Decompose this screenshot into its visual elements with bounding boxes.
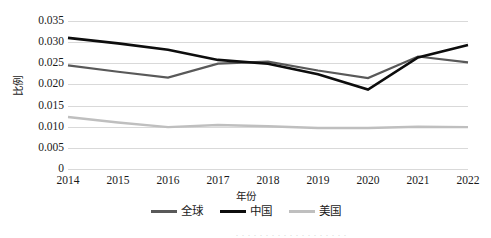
y-tick-label: 0.015 (6, 100, 64, 112)
plot-area (68, 21, 468, 169)
y-tick-label: 0.025 (6, 57, 64, 69)
x-tick-label: 2020 (344, 174, 392, 187)
x-tick-label: 2017 (194, 174, 242, 187)
x-tick-label: 2014 (44, 174, 92, 187)
x-tick-label: 2018 (244, 174, 292, 187)
chart-legend: 全球中国美国 (0, 205, 491, 217)
legend-swatch (220, 210, 246, 213)
legend-label: 中国 (250, 205, 272, 217)
x-tick-label: 2015 (94, 174, 142, 187)
legend-label: 全球 (181, 205, 203, 217)
y-tick-label: 0.010 (6, 121, 64, 133)
axis-baseline (68, 169, 468, 170)
y-tick-label: 0.035 (6, 15, 64, 27)
x-tick-label: 2016 (144, 174, 192, 187)
series-line (68, 117, 468, 128)
y-tick-label: 0.030 (6, 36, 64, 48)
legend-item[interactable]: 全球 (151, 205, 203, 217)
legend-swatch (289, 210, 315, 213)
series-line (68, 38, 468, 90)
legend-swatch (151, 210, 177, 213)
y-tick-label: 0.005 (6, 142, 64, 154)
legend-item[interactable]: 中国 (220, 205, 272, 217)
line-chart: 比例 0.0350.0300.0250.0200.0150.0100.0050 … (0, 0, 491, 238)
y-tick-label: 0 (6, 163, 64, 175)
legend-label: 美国 (319, 205, 341, 217)
legend-item[interactable]: 美国 (289, 205, 341, 217)
y-axis-tick-labels: 0.0350.0300.0250.0200.0150.0100.0050 (2, 21, 64, 169)
x-axis-title: 年份 (0, 188, 491, 203)
x-tick-label: 2019 (294, 174, 342, 187)
caption-sliver: . . . . . . . . . . . . . . . . . . . (236, 229, 481, 237)
x-tick-label: 2022 (444, 174, 491, 187)
x-tick-label: 2021 (394, 174, 442, 187)
series-lines (68, 21, 468, 169)
series-line (68, 57, 468, 79)
y-tick-label: 0.020 (6, 78, 64, 90)
